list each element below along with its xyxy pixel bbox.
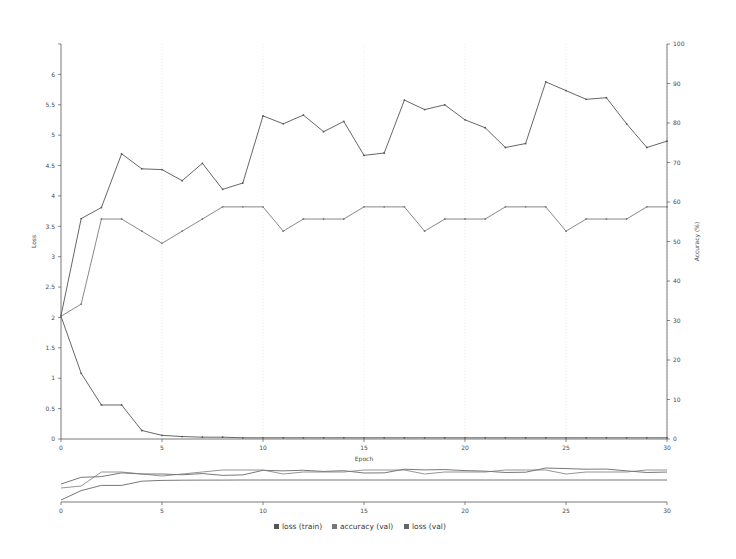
data-point xyxy=(202,218,204,220)
legend-item[interactable]: loss (train) xyxy=(274,522,322,531)
data-point xyxy=(303,437,305,439)
y-tick-label-left: 4.5 xyxy=(45,162,55,169)
data-point xyxy=(606,437,608,439)
data-point xyxy=(303,114,305,116)
data-point xyxy=(464,218,466,220)
legend-item[interactable]: loss (val) xyxy=(404,522,446,531)
data-point xyxy=(626,437,628,439)
data-point xyxy=(343,121,345,123)
y-tick-label-left: 4 xyxy=(51,192,55,199)
data-point xyxy=(323,131,325,133)
data-point xyxy=(363,154,365,156)
data-point xyxy=(404,437,406,439)
overview-series-loss-train xyxy=(61,480,667,500)
data-point xyxy=(565,90,567,92)
data-point xyxy=(141,168,143,170)
training-metrics-chart: 051015202530 00.511.522.533.544.555.56 0… xyxy=(0,0,736,559)
data-point xyxy=(525,437,527,439)
data-point xyxy=(282,123,284,125)
y-tick-label-right: 20 xyxy=(673,356,681,363)
y-tick-label-left: 5.5 xyxy=(45,101,55,108)
y-tick-label-left: 2 xyxy=(51,314,55,321)
y-tick-label-right: 40 xyxy=(673,277,681,284)
data-point xyxy=(606,218,608,220)
data-point xyxy=(404,99,406,101)
data-point xyxy=(121,218,123,220)
legend-item[interactable]: accuracy (val) xyxy=(332,522,393,531)
overview-x-tick-label: 5 xyxy=(160,507,164,514)
y-axis-title-left: Loss xyxy=(30,235,37,248)
legend-swatch xyxy=(274,524,279,529)
data-point xyxy=(181,230,183,232)
data-point xyxy=(303,218,305,220)
overview-x-tick-label: 0 xyxy=(59,507,63,514)
data-point xyxy=(585,218,587,220)
y-tick-label-left: 0.5 xyxy=(45,405,55,412)
series-loss-val xyxy=(60,206,668,317)
data-point xyxy=(101,207,103,209)
data-point xyxy=(242,182,244,184)
data-point xyxy=(282,437,284,439)
data-point xyxy=(484,218,486,220)
data-point xyxy=(646,147,648,149)
y-tick-label-right: 100 xyxy=(673,40,685,47)
overview-x-tick-label: 10 xyxy=(259,507,267,514)
y-tick-label-left: 3 xyxy=(51,253,55,260)
data-point xyxy=(565,230,567,232)
data-point xyxy=(282,230,284,232)
x-axis-ticks: 051015202530 xyxy=(59,439,671,451)
data-point xyxy=(626,123,628,125)
y-tick-label-right: 60 xyxy=(673,198,681,205)
x-tick-label: 25 xyxy=(562,444,570,451)
x-tick-label: 0 xyxy=(59,444,63,451)
overview-x-tick-label: 25 xyxy=(562,507,570,514)
y-tick-label-right: 0 xyxy=(673,435,677,442)
data-point xyxy=(161,242,163,244)
y-tick-label-left: 0 xyxy=(51,435,55,442)
y-tick-label-left: 5 xyxy=(51,131,55,138)
data-point xyxy=(262,115,264,117)
data-point xyxy=(323,437,325,439)
data-point xyxy=(262,437,264,439)
data-point xyxy=(383,152,385,154)
plot-gridlines xyxy=(162,44,667,439)
data-point xyxy=(161,434,163,436)
data-point xyxy=(222,188,224,190)
data-point xyxy=(545,437,547,439)
data-point xyxy=(545,206,547,208)
data-point xyxy=(383,206,385,208)
chart-legend: loss (train)accuracy (val)loss (val) xyxy=(274,522,446,531)
overview-x-tick-label: 30 xyxy=(663,507,671,514)
overview-x-tick-label: 15 xyxy=(360,507,368,514)
data-point xyxy=(444,104,446,106)
legend-label: loss (train) xyxy=(282,522,322,531)
data-point xyxy=(101,404,103,406)
y-tick-label-left: 2.5 xyxy=(45,283,55,290)
data-point xyxy=(505,437,507,439)
data-point xyxy=(222,436,224,438)
data-point xyxy=(141,230,143,232)
overview-x-axis: 051015202530 xyxy=(59,502,671,514)
data-point xyxy=(242,206,244,208)
y-tick-label-right: 50 xyxy=(673,238,681,245)
data-point xyxy=(464,437,466,439)
data-point xyxy=(181,180,183,182)
data-point xyxy=(525,206,527,208)
data-point xyxy=(585,437,587,439)
data-point xyxy=(222,206,224,208)
data-point xyxy=(80,303,82,305)
data-point xyxy=(505,147,507,149)
data-point xyxy=(424,230,426,232)
data-point xyxy=(121,153,123,155)
data-point xyxy=(161,169,163,171)
x-axis-title: Epoch xyxy=(355,455,374,463)
data-point xyxy=(363,437,365,439)
data-point xyxy=(363,206,365,208)
legend-swatch xyxy=(332,524,337,529)
data-point xyxy=(626,218,628,220)
y-axis-title-right: Accuracy (%) xyxy=(693,222,701,262)
y-tick-label-left: 1.5 xyxy=(45,344,55,351)
y-tick-label-right: 90 xyxy=(673,80,681,87)
data-point xyxy=(545,81,547,83)
data-point xyxy=(484,437,486,439)
